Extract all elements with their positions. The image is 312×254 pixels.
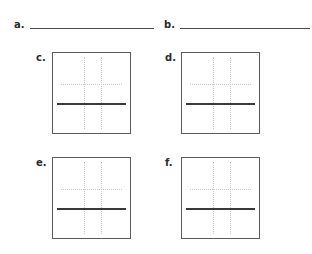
plot-box-f[interactable]: [181, 157, 260, 239]
grid-horizontal-guide: [61, 84, 122, 85]
drawn-horizontal-line: [57, 208, 126, 210]
plot-label-d: d.: [165, 53, 176, 63]
plot-label-f: f.: [165, 158, 173, 168]
answer-blank-a[interactable]: [30, 28, 154, 29]
grid-vertical-guide: [230, 57, 231, 129]
drawn-horizontal-line: [186, 103, 255, 105]
plot-label-c: c.: [36, 53, 46, 63]
grid-horizontal-guide: [61, 189, 122, 190]
answer-row-b: b.: [164, 20, 310, 31]
answer-row-a: a.: [14, 20, 154, 31]
plot-box-d[interactable]: [181, 52, 260, 134]
grid-horizontal-guide: [190, 189, 251, 190]
grid-horizontal-guide: [190, 84, 251, 85]
grid-vertical-guide: [213, 57, 214, 129]
answer-blank-b[interactable]: [180, 28, 310, 29]
grid-vertical-guide: [84, 162, 85, 234]
grid-vertical-guide: [84, 57, 85, 129]
grid-vertical-guide: [101, 57, 102, 129]
plot-box-c[interactable]: [52, 52, 131, 134]
answer-label-a: a.: [14, 20, 25, 31]
worksheet-page: a. b. c. d. e.: [0, 0, 312, 254]
grid-vertical-guide: [101, 162, 102, 234]
grid-vertical-guide: [213, 162, 214, 234]
grid-vertical-guide: [230, 162, 231, 234]
drawn-horizontal-line: [57, 103, 126, 105]
drawn-horizontal-line: [186, 208, 255, 210]
plot-box-e[interactable]: [52, 157, 131, 239]
answer-label-b: b.: [164, 20, 175, 31]
plot-label-e: e.: [36, 158, 47, 168]
